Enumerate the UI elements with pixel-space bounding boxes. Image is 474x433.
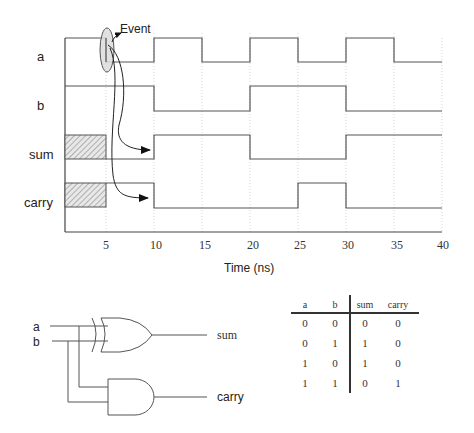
table-cell: 1	[302, 377, 308, 389]
signal-label-b: b	[37, 98, 44, 113]
and-gate	[108, 379, 154, 415]
x-axis-ticks: 5 10 15 20 25 30 35 40	[103, 238, 449, 252]
table-cell: 0	[332, 357, 338, 369]
x-tick: 35	[391, 238, 403, 252]
waveform-b	[65, 86, 442, 111]
table-cell: 0	[302, 317, 308, 329]
table-cell: 0	[362, 317, 368, 329]
circuit-output-sum: sum	[217, 328, 238, 342]
table-cell: 0	[395, 357, 401, 369]
x-tick: 25	[294, 238, 306, 252]
table-cell: 1	[332, 337, 338, 349]
table-cell: 0	[395, 317, 401, 329]
table-cell: 1	[362, 337, 368, 349]
half-adder-circuit	[50, 318, 207, 415]
table-cell: 1	[302, 357, 308, 369]
table-cell: 1	[362, 357, 368, 369]
x-tick: 10	[150, 238, 162, 252]
circuit-input-a: a	[33, 320, 40, 334]
event-label: Event	[120, 22, 151, 36]
circuit-output-carry: carry	[217, 390, 244, 404]
table-cell: 0	[332, 317, 338, 329]
timing-diagram: a b sum carry Event 5 10 15 20 25 30 35 …	[0, 0, 474, 433]
x-axis-label: Time (ns)	[224, 261, 274, 275]
sum-undefined-region	[65, 135, 106, 159]
x-tick: 40	[437, 238, 449, 252]
event-ellipse	[100, 28, 114, 72]
x-tick: 30	[342, 238, 354, 252]
waveform-carry	[106, 183, 442, 208]
circuit-input-b: b	[33, 335, 40, 349]
table-header: a	[303, 299, 308, 310]
carry-undefined-region	[65, 183, 106, 207]
x-tick: 20	[247, 238, 259, 252]
table-header: b	[333, 299, 338, 310]
table-cell: 1	[395, 377, 401, 389]
waveform-sum	[106, 135, 442, 159]
table-cell: 0	[395, 337, 401, 349]
truth-table: a b sum carry 0 0 0 0 0 1 1 0 1 0 1 0 1 …	[291, 295, 419, 393]
signal-label-sum: sum	[29, 147, 54, 162]
table-header: carry	[388, 299, 409, 310]
x-tick: 5	[103, 238, 109, 252]
signal-label-carry: carry	[24, 195, 53, 210]
grid-lines	[106, 33, 442, 232]
waveform-a	[65, 38, 442, 62]
table-cell: 0	[362, 377, 368, 389]
x-tick: 15	[199, 238, 211, 252]
table-header: sum	[357, 299, 374, 310]
event-to-carry-arrow	[110, 48, 148, 198]
table-cell: 1	[332, 377, 338, 389]
table-cell: 0	[302, 337, 308, 349]
xor-gate	[92, 318, 96, 352]
signal-label-a: a	[37, 49, 45, 64]
